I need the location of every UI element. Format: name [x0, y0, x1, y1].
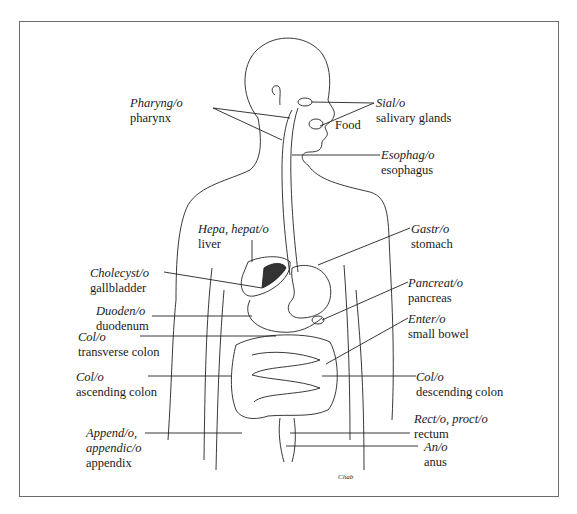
term-stomach: Gastr/o — [411, 222, 453, 237]
term-appendix-2: appendic/o — [86, 441, 142, 456]
arm-right-inner2 — [356, 290, 364, 470]
label-gallbladder: Cholecyst/o gallbladder — [90, 266, 149, 296]
rectum-2 — [292, 418, 295, 462]
label-stomach: Gastr/o stomach — [411, 222, 453, 252]
name-salivary: salivary glands — [376, 111, 451, 126]
name-esophagus: esophagus — [381, 163, 434, 178]
duodenum — [248, 300, 322, 332]
label-rectum: Rect/o, proct/o rectum — [414, 412, 488, 442]
esophagus-outline — [282, 110, 292, 275]
neck-left — [176, 118, 260, 300]
label-pancreas: Pancreat/o pancreas — [408, 276, 463, 306]
label-anus: An/o anus — [424, 440, 448, 470]
ear — [272, 86, 280, 105]
term-salivary: Sial/o — [376, 96, 451, 111]
term-descending-colon: Col/o — [416, 370, 503, 385]
term-gallbladder: Cholecyst/o — [90, 266, 149, 281]
label-esophagus: Esophag/o esophagus — [381, 148, 434, 178]
salivary-gland — [298, 98, 312, 106]
label-transverse-colon: Col/o transverse colon — [78, 330, 160, 360]
rectum — [279, 418, 284, 462]
name-gallbladder: gallbladder — [90, 281, 149, 296]
term-liver: Hepa, hepat/o — [198, 222, 269, 237]
term-pharynx: Pharyng/o — [130, 96, 183, 111]
arm-left-inner2 — [216, 290, 224, 470]
name-small-bowel: small bowel — [408, 327, 469, 342]
artist-signature: Chab — [338, 470, 353, 485]
label-food: Food — [335, 118, 361, 133]
leader-pancreas — [322, 282, 408, 320]
name-descending-colon: descending colon — [416, 385, 503, 400]
term-anus: An/o — [424, 440, 448, 455]
food-bolus — [309, 119, 323, 129]
term-pancreas: Pancreat/o — [408, 276, 463, 291]
torso-left — [168, 300, 176, 440]
label-appendix: Append/o, appendic/o appendix — [86, 426, 142, 471]
label-small-bowel: Enter/o small bowel — [408, 312, 469, 342]
stomach — [288, 265, 330, 318]
term-rectum: Rect/o, proct/o — [414, 412, 488, 427]
term-duodenum: Duoden/o — [96, 304, 149, 319]
term-ascending-colon: Col/o — [76, 370, 157, 385]
label-salivary: Sial/o salivary glands — [376, 96, 451, 126]
name-anus: anus — [424, 455, 448, 470]
label-liver: Hepa, hepat/o liver — [198, 222, 269, 252]
name-appendix: appendix — [86, 456, 142, 471]
gallbladder — [262, 264, 286, 289]
name-ascending-colon: ascending colon — [76, 385, 157, 400]
name-food: Food — [335, 118, 361, 133]
neck-right — [308, 165, 393, 420]
esophagus-outline-2 — [291, 108, 298, 272]
arm-left-inner — [204, 268, 212, 460]
leader-salivary-1 — [312, 102, 374, 103]
term-transverse-colon: Col/o — [78, 330, 160, 345]
name-stomach: stomach — [411, 237, 453, 252]
name-pancreas: pancreas — [408, 291, 463, 306]
leader-small-bowel — [326, 318, 408, 364]
label-descending-colon: Col/o descending colon — [416, 370, 503, 400]
term-esophagus: Esophag/o — [381, 148, 434, 163]
head-outline — [245, 38, 334, 165]
label-pharynx: Pharyng/o pharynx — [130, 96, 183, 126]
name-transverse-colon: transverse colon — [78, 345, 160, 360]
leader-gallbladder — [164, 272, 262, 288]
term-small-bowel: Enter/o — [408, 312, 469, 327]
label-ascending-colon: Col/o ascending colon — [76, 370, 157, 400]
term-appendix: Append/o, — [86, 426, 142, 441]
name-liver: liver — [198, 237, 269, 252]
small-intestine — [252, 352, 320, 402]
large-intestine — [231, 335, 337, 419]
name-pharynx: pharynx — [130, 111, 183, 126]
leader-stomach — [318, 228, 410, 265]
